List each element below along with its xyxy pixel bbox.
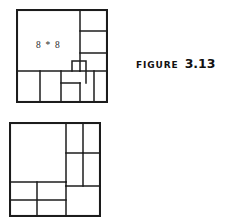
figure-block-3-13: 8 * 8 FIGURE3.13 xyxy=(0,0,233,110)
caption-word: FIGURE xyxy=(136,60,179,70)
figure-block-3-14: 7 * 7 FIGURE3.14 xyxy=(0,112,233,223)
figure-page: 8 * 8 FIGURE3.13 7 * 7 FIGURE3.14 xyxy=(0,0,233,223)
squared-square-diagram-3-13 xyxy=(16,9,108,103)
size-label-8x8: 8 * 8 xyxy=(36,40,61,50)
figure-caption-3-13: FIGURE3.13 xyxy=(136,53,216,72)
stepped-notch xyxy=(72,61,86,83)
outer-square-border xyxy=(10,123,100,216)
squared-square-diagram-3-14 xyxy=(9,122,101,217)
caption-number: 3.13 xyxy=(185,56,216,71)
